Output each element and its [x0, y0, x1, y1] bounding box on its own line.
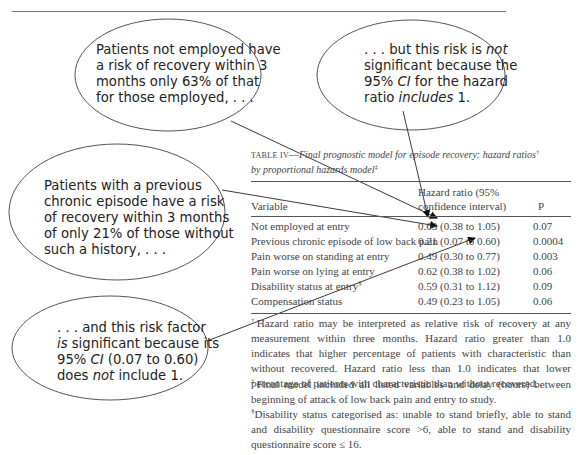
table-row: Not employed at entry 0.63 (0.38 to 1.05…	[251, 219, 571, 234]
annotation-line: a risk of recovery within 3	[96, 58, 281, 74]
table-row: Pain worse on lying at entry 0.62 (0.38 …	[251, 264, 571, 279]
cell-hr: 0.63 (0.38 to 1.05)	[418, 219, 500, 234]
cell-hr: 0.62 (0.38 to 1.02)	[418, 264, 500, 279]
table-top-rule	[251, 181, 571, 182]
cell-p: 0.07	[533, 219, 552, 234]
col-header-hr-line2: confidence interval)	[418, 199, 506, 213]
col-header-variable: Variable	[251, 199, 288, 213]
table-row: Disability status at entry§ 0.59 (0.31 t…	[251, 279, 571, 294]
table-title: Final prognostic model for episode recov…	[299, 149, 536, 160]
cell-hr: 0.49 (0.30 to 0.77)	[418, 249, 500, 264]
table-row: Compensation status 0.49 (0.23 to 1.05) …	[251, 294, 571, 309]
col-header-hr: Hazard ratio (95% confidence interval)	[418, 185, 506, 213]
table-label: TABLE IV	[251, 151, 289, 160]
annotation-line: months only 63% of that	[96, 74, 281, 90]
cell-p: 0.06	[533, 264, 552, 279]
annotation-line: for those employed, . . .	[96, 90, 281, 106]
annotation-not-employed: Patients not employed have a risk of rec…	[96, 42, 281, 106]
footnote-mark: †	[536, 148, 540, 156]
cell-variable: Previous chronic episode of low back pai…	[251, 234, 438, 249]
annotation-line: Patients not employed have	[96, 42, 281, 58]
cell-variable: Not employed at entry	[251, 219, 350, 234]
cell-p: 0.003	[533, 249, 558, 264]
cell-variable: Pain worse on standing at entry	[251, 249, 389, 264]
cell-p: 0.06	[533, 294, 552, 309]
annotation-line: of only 21% of those without	[44, 226, 234, 242]
annotation-line: chronic episode have a risk	[44, 194, 234, 210]
table-row: Previous chronic episode of low back pai…	[251, 234, 571, 249]
cell-p: 0.09	[533, 279, 552, 294]
annotation-line: significant because the	[364, 58, 517, 74]
col-header-p: P	[538, 199, 544, 213]
annotation-line: does not include 1.	[57, 368, 219, 384]
table-row: Pain worse on standing at entry 0.49 (0.…	[251, 249, 571, 264]
table-header-rule	[251, 216, 571, 217]
table-bottom-rule	[251, 313, 571, 314]
cell-variable: Compensation status	[251, 294, 342, 309]
cell-variable: Disability status at entry§	[251, 279, 362, 294]
annotation-line: 95% CI (0.07 to 0.60)	[57, 352, 219, 368]
annotation-line: Patients with a previous	[44, 178, 234, 194]
annotation-significant: . . . and this risk factor is significan…	[57, 320, 219, 384]
table-title-line2: by proportional hazards model	[251, 164, 374, 175]
cell-hr: 0.21 (0.07 to 0.60)	[418, 234, 500, 249]
annotation-not-significant: . . . but this risk is not significant b…	[364, 42, 517, 106]
cell-hr: 0.59 (0.31 to 1.12)	[418, 279, 500, 294]
annotation-line: is significant because its	[57, 336, 219, 352]
annotation-line: such a history, . . .	[44, 242, 234, 258]
footnote-disability-status: §Disability status categorised as: unabl…	[251, 407, 571, 452]
annotation-line: ratio includes 1.	[364, 90, 517, 106]
cell-hr: 0.49 (0.23 to 1.05)	[418, 294, 500, 309]
annotation-previous-chronic: Patients with a previous chronic episode…	[44, 178, 234, 258]
table-caption: TABLE IV—Final prognostic model for epis…	[251, 148, 571, 177]
footnote-mark: ‡	[374, 163, 378, 171]
col-header-hr-line1: Hazard ratio (95%	[418, 185, 506, 199]
cell-p: 0.0004	[533, 234, 563, 249]
footnote-final-model: ‡Final model included all listed variabl…	[251, 377, 571, 407]
annotation-line: of recovery within 3 months	[44, 210, 234, 226]
cell-variable: Pain worse on lying at entry	[251, 264, 375, 279]
annotation-line: . . . and this risk factor	[57, 320, 219, 336]
annotation-line: . . . but this risk is not	[364, 42, 517, 58]
annotation-line: 95% CI for the hazard	[364, 74, 517, 90]
